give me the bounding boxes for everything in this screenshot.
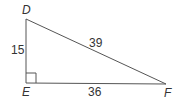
right-angle-marker xyxy=(26,73,36,83)
side-label-ef: 36 xyxy=(88,86,101,98)
vertex-label-d: D xyxy=(22,4,31,16)
side-label-df: 39 xyxy=(89,37,102,49)
vertex-label-e: E xyxy=(22,86,30,98)
triangle-def xyxy=(26,19,166,84)
side-label-de: 15 xyxy=(11,44,24,56)
vertex-label-f: F xyxy=(164,87,171,99)
